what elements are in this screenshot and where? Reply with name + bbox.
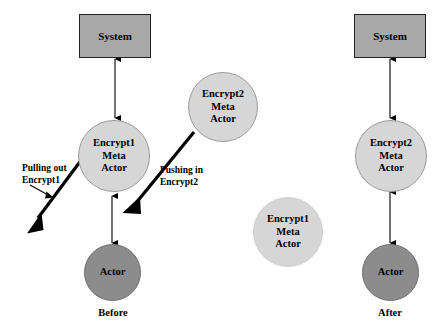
annotation-pushing-in-line2: Encrypt2 (160, 177, 203, 189)
caption-after: After (355, 307, 425, 318)
annotation-pulling-out-line2: Encrypt1 (22, 175, 67, 187)
annotation-pulling-out-line1: Pulling out (22, 163, 67, 175)
encrypt2-meta-actor-after[interactable]: Encrypt2 Meta Actor (355, 120, 427, 192)
encrypt2-after-line2: Meta (379, 150, 402, 162)
annotation-pulling-out: Pulling out Encrypt1 (22, 163, 67, 186)
encrypt1-meta-actor-detached[interactable]: Encrypt1 Meta Actor (253, 197, 323, 267)
encrypt1-detached-line2: Meta (276, 226, 299, 238)
actor-after-label: Actor (378, 266, 404, 278)
encrypt1-before-line1: Encrypt1 (93, 137, 135, 149)
system-box-after[interactable]: System (354, 14, 426, 58)
encrypt2-incoming-line1: Encrypt2 (202, 88, 244, 100)
encrypt1-before-line3: Actor (101, 162, 127, 174)
diagram-canvas: System Encrypt1 Meta Actor Encrypt2 Meta… (0, 0, 446, 333)
encrypt2-incoming-line2: Meta (211, 101, 234, 113)
annotation-pushing-in-line1: Pushing in (160, 165, 203, 177)
encrypt2-after-line3: Actor (378, 162, 404, 174)
system-box-after-label: System (373, 30, 407, 43)
encrypt1-meta-actor-before[interactable]: Encrypt1 Meta Actor (78, 120, 150, 192)
system-box-before-label: System (98, 30, 132, 43)
encrypt1-before-line2: Meta (102, 150, 125, 162)
actor-circle-after[interactable]: Actor (362, 244, 419, 301)
actor-before-label: Actor (100, 266, 126, 278)
pointer-pulling-out-label (30, 185, 54, 199)
caption-before: Before (78, 307, 148, 318)
encrypt1-detached-line1: Encrypt1 (267, 213, 309, 225)
encrypt2-meta-actor-incoming[interactable]: Encrypt2 Meta Actor (188, 72, 258, 142)
annotation-pushing-in: Pushing in Encrypt2 (160, 165, 203, 188)
actor-circle-before[interactable]: Actor (84, 244, 141, 301)
system-box-before[interactable]: System (79, 14, 151, 58)
encrypt2-after-line1: Encrypt2 (370, 137, 412, 149)
encrypt2-incoming-line3: Actor (210, 113, 236, 125)
encrypt1-detached-line3: Actor (275, 238, 301, 250)
